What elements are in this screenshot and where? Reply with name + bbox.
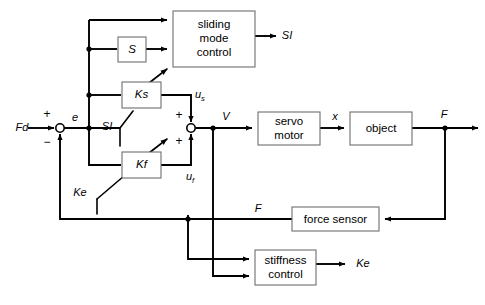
block-label-servo-motor-line2: motor [274, 129, 304, 141]
block-label-sliding-mode-control-line1: sliding [198, 18, 231, 30]
signal-label-si-switch: SI [102, 120, 112, 132]
node-dot-s-branch [86, 46, 91, 51]
block-label-sliding-mode-control-line2: mode [200, 32, 229, 44]
signal-label-x: x [331, 110, 338, 122]
signal-label-fd: Fd [16, 121, 30, 133]
block-diagram-canvas: + − + + sliding mode control S Ks Kf ser… [0, 0, 485, 305]
summing-junction-error [56, 124, 64, 132]
wire-to-stiffness-top [188, 215, 249, 259]
sign-fd-plus: + [43, 107, 50, 121]
signal-label-f-sensor: F [255, 202, 263, 214]
wire-bus-to-kf [89, 128, 121, 165]
si-switch-blade-icon [120, 111, 133, 128]
signal-label-ke-switch: Ke [73, 186, 86, 198]
signal-label-f-output: F [441, 108, 449, 120]
signal-label-uf-subscript: f [192, 176, 195, 185]
block-diagram-svg: + − + + sliding mode control S Ks Kf ser… [0, 0, 485, 305]
sign-control-plus-top: + [175, 108, 182, 122]
block-label-stiffness-control-line1: stiffness [265, 254, 307, 266]
signal-label-si-output: SI [282, 29, 292, 41]
sign-control-plus-bottom: + [175, 134, 182, 148]
block-label-servo-motor-line1: servo [275, 115, 303, 127]
wire-v-to-stiffness-bottom [213, 128, 249, 276]
node-dot-feedback [185, 216, 190, 221]
signal-label-us-subscript: s [201, 94, 205, 103]
summing-junction-control [187, 124, 195, 132]
node-dot-v [210, 125, 215, 130]
signal-label-v: V [222, 110, 231, 122]
node-dot-e [86, 125, 91, 130]
block-label-stiffness-control-line2: control [268, 268, 303, 280]
sign-fd-minus: − [43, 135, 50, 149]
block-label-s: S [128, 43, 136, 55]
block-label-object: object [366, 122, 397, 134]
block-label-sliding-mode-control-line3: control [197, 46, 232, 58]
signal-label-ke-output: Ke [356, 257, 369, 269]
node-dot-f [442, 125, 447, 130]
node-dot-ks-branch [86, 92, 91, 97]
signal-label-e: e [72, 111, 78, 123]
block-label-ks: Ks [135, 88, 149, 100]
block-label-force-sensor: force sensor [304, 213, 367, 225]
block-label-kf: Kf [136, 158, 149, 170]
